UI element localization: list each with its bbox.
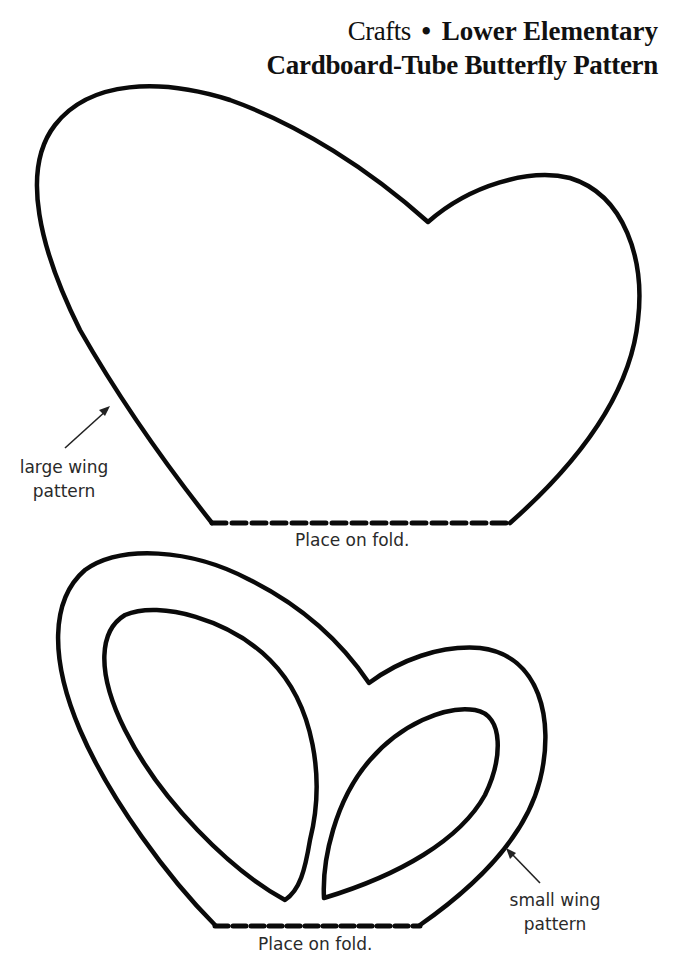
large-wing-label-line2: pattern [14,479,114,503]
large-wing-arrow-icon [65,406,110,448]
small-wing-arrow-icon [506,848,540,883]
large-wing-label: large wing pattern [14,455,114,503]
small-wing-inner-cutout-upper [104,610,316,900]
small-wing-label: small wing pattern [500,888,610,936]
small-wing-inner-cutout-lower [324,709,498,898]
small-wing-fold-label: Place on fold. [258,934,372,954]
small-wing-label-line2: pattern [500,912,610,936]
large-wing-label-line1: large wing [14,455,114,479]
small-wing-label-line1: small wing [500,888,610,912]
large-wing-outline [37,86,639,523]
large-wing-fold-label: Place on fold. [295,530,409,550]
